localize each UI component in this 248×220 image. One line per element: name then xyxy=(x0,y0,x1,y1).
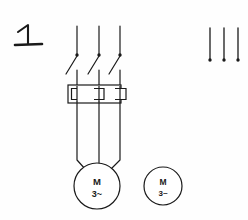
contactor-contacts xyxy=(66,56,120,74)
motor-secondary-label-m: M xyxy=(159,177,166,187)
isolated-dot-3 xyxy=(236,58,239,61)
motor-secondary-label-phase: 3~ xyxy=(158,189,167,198)
supply-phase-lines xyxy=(77,26,120,54)
motor-primary-label-m: M xyxy=(93,176,101,187)
relay-to-motor-conductors xyxy=(77,102,120,170)
isolated-supply-stubs xyxy=(210,28,238,59)
schematic-drawing: M 3~ M 3~ xyxy=(0,0,248,220)
isolated-supply-dots xyxy=(208,58,239,61)
contact-blade-L2 xyxy=(88,56,99,74)
isolated-dot-1 xyxy=(208,58,211,61)
exercise-number-1 xyxy=(15,25,42,45)
contactor-to-relay-conductors xyxy=(77,70,120,86)
schematic-canvas: M 3~ M 3~ xyxy=(0,0,248,220)
motor-lead-U xyxy=(77,102,86,170)
motor-primary-label-phase: 3~ xyxy=(92,189,102,199)
motor-lead-W xyxy=(110,102,120,170)
contact-blade-L1 xyxy=(66,56,77,74)
heater-element-L1 xyxy=(72,89,78,100)
contact-blade-L3 xyxy=(109,56,120,74)
isolated-dot-2 xyxy=(222,58,225,61)
